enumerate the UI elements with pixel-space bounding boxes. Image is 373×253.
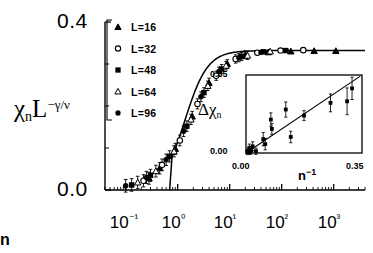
legend-label: L=32 bbox=[131, 44, 156, 55]
legend-item[interactable] bbox=[115, 67, 120, 72]
legend-label: L=64 bbox=[131, 87, 156, 98]
x-axis-tick: 10¹ bbox=[214, 213, 237, 231]
x-axis-tick: 10³ bbox=[318, 213, 341, 231]
legend-label: L=96 bbox=[131, 108, 156, 119]
inset-x-tick-min: 0.00 bbox=[232, 162, 250, 171]
legend-item[interactable] bbox=[115, 24, 121, 30]
inset-y-tick-top: 0.35 bbox=[210, 70, 228, 79]
x-axis-tick: 10⁻¹ bbox=[110, 213, 139, 231]
inset-x-tick-max: 0.35 bbox=[346, 162, 364, 171]
legend-item[interactable] bbox=[115, 88, 121, 94]
y-axis-tick-bottom: 0.0 bbox=[57, 178, 88, 199]
inset-x-axis-title: n−1 bbox=[298, 167, 316, 183]
x-axis-tick: 10⁰ bbox=[162, 213, 185, 231]
legend-bracket bbox=[107, 20, 112, 120]
legend-label: L=48 bbox=[131, 65, 156, 76]
inset-y-tick-bottom: 0.00 bbox=[210, 147, 228, 156]
y-axis-tick-top: 0.4 bbox=[57, 10, 88, 31]
y-axis-title: χnL−γ/ν bbox=[14, 96, 70, 124]
legend-label: L=16 bbox=[131, 22, 156, 33]
inset-y-axis-title: Δχn bbox=[198, 101, 221, 120]
legend-item[interactable] bbox=[115, 46, 120, 51]
x-axis-title: n bbox=[0, 232, 10, 248]
legend-item[interactable] bbox=[115, 110, 120, 115]
x-axis-tick: 10² bbox=[266, 213, 289, 231]
